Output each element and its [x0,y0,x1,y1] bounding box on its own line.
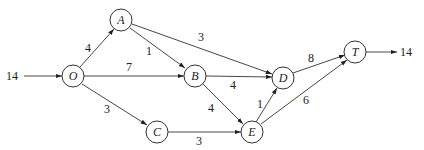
node-label-C: C [153,125,162,139]
edge-label-A-D: 3 [198,30,204,44]
edge-label-O-B: 7 [126,60,132,74]
sink-flow-label: 14 [400,45,412,59]
edge-label-B-E: 4 [208,101,214,115]
edge-label-E-D: 1 [257,97,263,111]
edge-B-D [206,76,272,77]
node-label-D: D [278,71,288,85]
edge-label-O-C: 3 [104,102,110,116]
node-B: B [184,65,206,87]
node-D: D [272,67,294,89]
node-T: T [344,41,366,63]
node-O: O [62,65,84,87]
edge-label-E-T: 6 [303,93,309,107]
edge-D-T [293,55,345,73]
edge-O-C [82,84,147,125]
node-label-O: O [69,69,78,83]
edge-label-B-D: 4 [230,78,236,92]
edge-label-D-T: 8 [308,51,314,65]
network-diagram: 14 14 4 7 3 1 3 4 4 3 1 8 6 O A B C D [0,0,424,150]
node-E: E [241,121,263,143]
node-label-E: E [247,125,256,139]
edge-A-B [130,28,185,68]
node-A: A [110,9,132,31]
edge-label-A-B: 1 [146,44,152,58]
source-flow-label: 14 [6,69,18,83]
edge-label-O-A: 4 [85,41,91,55]
edge-label-C-E: 3 [196,134,202,148]
node-label-B: B [191,69,199,83]
node-label-A: A [116,13,125,27]
node-C: C [146,121,168,143]
